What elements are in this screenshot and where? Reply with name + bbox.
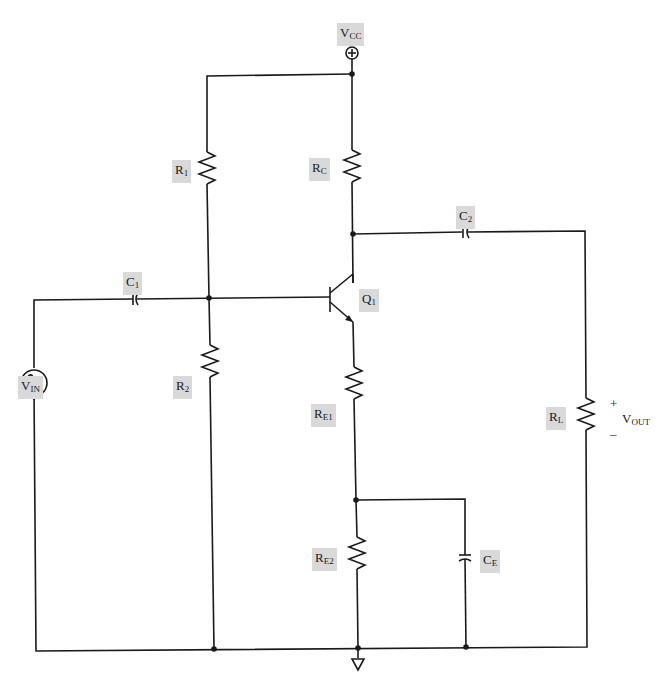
label-vout-sub: OUT	[631, 417, 650, 427]
resistor-r1-icon	[199, 152, 215, 184]
wire-vin-to-c1	[34, 299, 133, 368]
resistor-r2-icon	[202, 345, 218, 377]
label-re2: RE2	[312, 548, 337, 571]
label-ce-sub: E	[492, 558, 498, 568]
wire-top-rail	[207, 74, 352, 77]
label-c1-sub: 1	[135, 280, 140, 290]
label-rc-main: R	[312, 160, 321, 175]
wire-r1-bottom	[207, 184, 209, 298]
label-c2-sub: 2	[468, 214, 473, 224]
label-rl: RL	[546, 407, 566, 430]
wire-bottom-rail	[34, 390, 587, 651]
wire-re2-bottom	[357, 569, 358, 648]
label-vout: VOUT	[622, 411, 650, 430]
label-r1-main: R	[175, 162, 184, 177]
label-rl-main: R	[549, 409, 558, 424]
wire-ce-bottom	[465, 559, 466, 647]
label-q1-sub: 1	[371, 297, 376, 307]
resistor-rl-icon	[578, 398, 594, 430]
label-ce: CE	[480, 550, 500, 573]
wire-ce-top	[356, 499, 465, 555]
resistor-rc-icon	[344, 150, 360, 182]
wire-re2-top	[356, 500, 357, 537]
wire-r2-top	[209, 298, 210, 345]
label-c2-main: C	[459, 208, 468, 223]
label-r2: R2	[173, 376, 192, 399]
label-rl-sub: L	[558, 415, 564, 425]
label-re2-main: R	[315, 550, 324, 565]
resistor-re2-icon	[349, 537, 365, 569]
label-r2-main: R	[176, 378, 185, 393]
node-ground-r2	[211, 646, 217, 652]
label-vin-main: V	[21, 378, 30, 393]
label-c2: C2	[456, 206, 475, 229]
label-r1-sub: 1	[184, 168, 189, 178]
label-r2-sub: 2	[185, 384, 190, 394]
label-re1-sub: E1	[323, 412, 333, 422]
label-rc: RC	[309, 158, 330, 181]
label-re2-sub: E2	[324, 556, 334, 566]
wire-base	[137, 297, 330, 299]
ground-icon	[352, 648, 364, 670]
node-ground-ce	[463, 644, 469, 650]
label-ce-main: C	[483, 552, 492, 567]
wire-emitter	[353, 322, 354, 367]
label-q1-main: Q	[362, 291, 371, 306]
resistor-re1-icon	[346, 367, 362, 399]
circuit-diagram	[0, 0, 670, 688]
wire-c2-to-rl	[468, 231, 586, 398]
output-minus-sign: –	[610, 426, 617, 441]
label-re1-main: R	[314, 406, 323, 421]
label-c1-main: C	[126, 274, 135, 289]
wire-c2-left	[353, 232, 462, 234]
label-q1: Q1	[359, 289, 379, 312]
label-rc-sub: C	[321, 166, 327, 176]
label-c1: C1	[123, 272, 142, 295]
label-vcc-main: V	[340, 25, 349, 40]
wire-re1-bottom	[354, 399, 356, 500]
wire-r2-bottom	[210, 377, 214, 649]
output-plus-sign: +	[610, 396, 617, 411]
label-r1: R1	[172, 160, 191, 183]
label-vin: VIN	[18, 376, 43, 399]
vcc-supply-icon	[346, 47, 358, 59]
label-vin-sub: IN	[30, 384, 40, 394]
label-re1: RE1	[311, 404, 336, 427]
label-vcc: VCC	[337, 23, 364, 46]
npn-transistor-icon	[330, 274, 353, 322]
label-vout-main: V	[622, 411, 631, 426]
label-vcc-sub: CC	[349, 31, 361, 41]
